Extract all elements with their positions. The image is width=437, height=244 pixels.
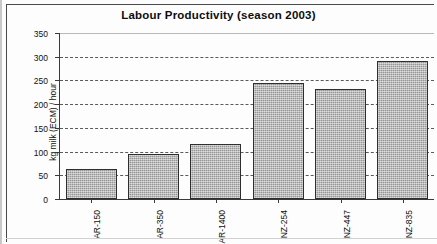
gridline xyxy=(60,33,434,34)
y-axis-tick-label: 250 xyxy=(34,76,48,86)
y-axis-tick-label: 200 xyxy=(34,100,48,110)
y-axis-tick: 50 xyxy=(55,175,60,176)
x-axis-tick: NZ-835 xyxy=(403,199,404,203)
chart-figure: Labour Productivity (season 2003) kg mil… xyxy=(0,0,437,244)
y-axis-tick-label: 150 xyxy=(34,124,48,134)
bar-nz-835 xyxy=(377,61,428,199)
y-axis-tick: 200 xyxy=(55,104,60,105)
x-axis-tick-label: NZ-835 xyxy=(404,210,414,238)
bar-nz-447 xyxy=(315,89,366,199)
x-axis-tick: AR-150 xyxy=(91,199,92,203)
y-axis-tick-label: 300 xyxy=(34,53,48,63)
y-axis-title: kg milk (ECM) / hour xyxy=(48,83,58,160)
y-axis-tick: 250 xyxy=(55,80,60,81)
bar-ar-150 xyxy=(66,169,117,199)
y-axis-tick: 300 xyxy=(55,57,60,58)
bar-nz-254 xyxy=(253,83,304,199)
figure-bottom-rule xyxy=(6,238,437,239)
x-axis-tick-label: AR-350 xyxy=(155,210,165,239)
x-axis-tick: NZ-254 xyxy=(278,199,279,203)
y-axis-tick-label: 50 xyxy=(39,171,48,181)
figure-left-edge xyxy=(0,0,2,244)
plot-area: 050100150200250300350 AR-150AR-350AR-140… xyxy=(59,33,434,200)
bar-ar-350 xyxy=(128,154,179,199)
y-axis-tick: 0 xyxy=(55,199,60,200)
y-axis-tick: 350 xyxy=(55,33,60,34)
y-axis-tick-label: 0 xyxy=(43,195,48,205)
x-axis-tick-label: NZ-447 xyxy=(342,210,352,238)
x-axis-tick: AR-350 xyxy=(154,199,155,203)
y-axis-tick: 100 xyxy=(55,152,60,153)
y-axis-tick-label: 100 xyxy=(34,148,48,158)
y-axis-tick-label: 350 xyxy=(34,29,48,39)
x-axis-tick-label: NZ-254 xyxy=(279,210,289,238)
x-axis-tick: AR-1400 xyxy=(216,199,217,203)
x-axis-tick-label: AR-150 xyxy=(92,210,102,239)
chart-title: Labour Productivity (season 2003) xyxy=(0,9,437,21)
gridline xyxy=(60,57,434,58)
bar-ar-1400 xyxy=(190,144,241,199)
x-axis-tick: NZ-447 xyxy=(341,199,342,203)
y-axis-tick: 150 xyxy=(55,128,60,129)
